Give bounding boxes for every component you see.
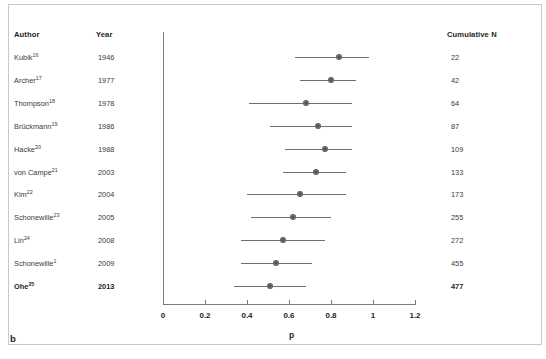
author-name: von Campe: [14, 168, 52, 177]
column-header-author: Author: [14, 30, 39, 39]
author-name: Brückmann: [14, 122, 51, 131]
study-year: 2013: [98, 282, 114, 291]
study-cumulative-n: 22: [451, 53, 459, 62]
study-cumulative-n: 173: [451, 190, 463, 199]
study-year: 2008: [98, 236, 114, 245]
author-name: Ohe: [14, 282, 28, 291]
reference-superscript: 16: [33, 52, 39, 58]
study-year: 1988: [98, 145, 114, 154]
study-author: Ohe25: [14, 282, 34, 291]
reference-superscript: 21: [52, 166, 58, 172]
study-year: 1986: [98, 122, 114, 131]
study-cumulative-n: 272: [451, 236, 463, 245]
study-year: 2005: [98, 213, 114, 222]
study-year: 1946: [98, 53, 114, 62]
study-author: Schonewille23: [14, 213, 59, 222]
author-name: Schonewille: [14, 259, 53, 268]
reference-superscript: 19: [51, 120, 57, 126]
study-cumulative-n: 42: [451, 76, 459, 85]
study-cumulative-n: 133: [451, 168, 463, 177]
study-year: 1978: [98, 99, 114, 108]
study-cumulative-n: 255: [451, 213, 463, 222]
reference-superscript: 20: [35, 143, 41, 149]
study-author: Hacke20: [14, 145, 41, 154]
column-header-cumulative-n: Cumulative N: [447, 30, 497, 39]
study-author: von Campe21: [14, 168, 58, 177]
author-name: Lin: [14, 236, 24, 245]
reference-superscript: 23: [53, 212, 59, 218]
study-author: Kubik16: [14, 53, 39, 62]
study-author: Brückmann19: [14, 122, 57, 131]
study-year: 2003: [98, 168, 114, 177]
study-cumulative-n: 455: [451, 259, 463, 268]
study-cumulative-n: 64: [451, 99, 459, 108]
study-author: Kim22: [14, 190, 33, 199]
author-name: Thompson: [14, 99, 49, 108]
author-name: Archer: [14, 76, 36, 85]
reference-superscript: 1: [53, 258, 56, 264]
reference-superscript: 22: [27, 189, 33, 195]
forest-plot-figure: Author Year Cumulative N Kubik16194622Ar…: [0, 0, 546, 359]
column-header-year: Year: [96, 30, 112, 39]
reference-superscript: 24: [24, 235, 30, 241]
study-author: Lin24: [14, 236, 30, 245]
study-year: 1977: [98, 76, 114, 85]
reference-superscript: 25: [28, 281, 34, 287]
study-year: 2009: [98, 259, 114, 268]
author-name: Kubik: [14, 53, 33, 62]
study-cumulative-n: 87: [451, 122, 459, 131]
study-cumulative-n: 109: [451, 145, 463, 154]
author-name: Schonewille: [14, 213, 53, 222]
study-author: Archer17: [14, 76, 42, 85]
x-axis-label: p: [289, 330, 294, 340]
panel-label: b: [10, 333, 16, 344]
author-name: Kim: [14, 190, 27, 199]
study-year: 2004: [98, 190, 114, 199]
reference-superscript: 17: [36, 74, 42, 80]
study-cumulative-n: 477: [451, 282, 463, 291]
reference-superscript: 18: [49, 97, 55, 103]
study-author: Thompson18: [14, 99, 55, 108]
author-name: Hacke: [14, 145, 35, 154]
study-author: Schonewille1: [14, 259, 56, 268]
